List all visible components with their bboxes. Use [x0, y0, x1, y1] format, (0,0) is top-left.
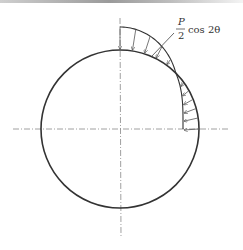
diagram: P 2 cos 2θ — [0, 0, 243, 250]
load-envelope — [120, 27, 183, 129]
load-arrow — [183, 91, 189, 96]
load-arrow — [181, 83, 183, 86]
load-arrow — [145, 36, 151, 53]
load-arrow — [184, 118, 197, 121]
label-numerator: P — [177, 16, 185, 27]
envelope-curve — [120, 27, 183, 129]
vertical-centerline — [120, 18, 121, 238]
load-arrow — [184, 109, 196, 113]
label-denominator: 2 — [178, 30, 184, 41]
label-function: cos 2θ — [188, 24, 220, 35]
load-arrow — [184, 100, 193, 105]
load-arrows — [120, 27, 198, 130]
load-arrow — [167, 59, 171, 64]
load-arrow — [132, 29, 135, 50]
load-label: P 2 cos 2θ — [176, 16, 220, 41]
leader-line — [152, 33, 174, 56]
